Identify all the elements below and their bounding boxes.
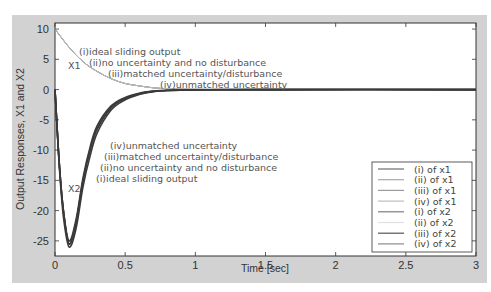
y-tick-label: -20 — [33, 205, 49, 217]
y-tick-label: -25 — [33, 235, 49, 247]
y-tick-label: -10 — [33, 144, 49, 156]
legend-label: (ii) of x1 — [414, 174, 454, 185]
x1-annotation-iv: (iv)unmatched uncertainty — [160, 79, 288, 90]
y-tick-label: 10 — [37, 23, 49, 35]
y-tick-label: 5 — [43, 53, 49, 65]
x1-annotation-iii: (iii)matched uncertainty/disturbance — [108, 68, 282, 79]
x-axis-title: Time [sec] — [241, 262, 289, 274]
x2-annotation-ii: (ii)no uncertainty and no disturbance — [100, 162, 277, 173]
x1-curve-label: X1 — [68, 60, 81, 71]
chart: 00.511.522.531050-5-10-15-20-25 Time [se… — [0, 0, 491, 292]
x-tick-label: 2 — [333, 259, 339, 271]
x-tick-label: 2.5 — [398, 259, 413, 271]
x1-annotation-i: (i)ideal sliding output — [79, 46, 181, 57]
x2-annotation-iv: (iv)unmatched uncertainty — [110, 140, 238, 151]
x-tick-label: 0 — [52, 259, 58, 271]
legend-label: (iii) of x2 — [414, 228, 456, 239]
x-tick-label: 3 — [473, 259, 479, 271]
legend-label: (iv) of x1 — [414, 196, 457, 207]
legend-label: (iii) of x1 — [414, 185, 456, 196]
x2-annotation-i: (i)ideal sliding output — [96, 173, 198, 184]
y-tick-label: -5 — [39, 114, 49, 126]
y-tick-label: -15 — [33, 174, 49, 186]
y-axis-title: Output Responses, X1 and X2 — [14, 68, 26, 210]
x-tick-label: 1 — [192, 259, 198, 271]
legend-label: (i) of x1 — [414, 164, 451, 175]
x1-annotation-ii: (ii)no uncertainty and no disturbance — [89, 57, 266, 68]
legend-label: (iv) of x2 — [414, 238, 457, 249]
legend-label: (i) of x2 — [414, 206, 451, 217]
x2-annotation-iii: (iii)matched uncertainty/disturbance — [104, 151, 278, 162]
x2-curve-label: X2 — [68, 183, 81, 194]
legend-label: (ii) of x2 — [414, 217, 454, 228]
legend: (i) of x1(ii) of x1(iii) of x1(iv) of x1… — [372, 162, 472, 252]
x-tick-label: 0.5 — [118, 259, 133, 271]
y-tick-label: 0 — [43, 84, 49, 96]
